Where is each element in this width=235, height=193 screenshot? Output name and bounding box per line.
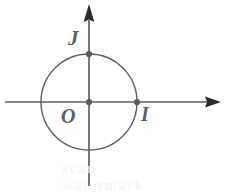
vertical-axis-arrowhead xyxy=(84,4,95,22)
point-label-J: J xyxy=(68,28,79,49)
point-J-dot xyxy=(86,51,92,57)
horizontal-axis-arrowhead xyxy=(205,97,221,108)
geometry-figure: J O I scan watermark xyxy=(0,0,235,193)
point-label-O: O xyxy=(61,106,75,126)
point-label-I: I xyxy=(141,104,149,124)
point-I-dot xyxy=(134,99,140,105)
point-O-dot xyxy=(86,99,92,105)
figure-canvas xyxy=(0,0,235,193)
